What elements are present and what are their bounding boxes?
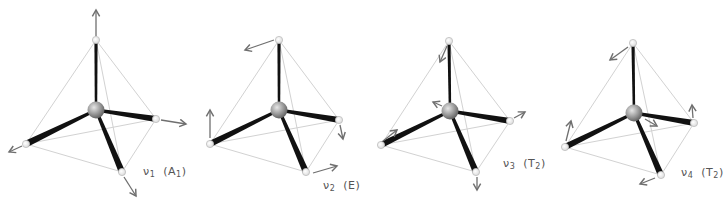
tetrahedron-edge — [381, 145, 476, 172]
central-atom-sphere — [88, 102, 105, 119]
mode-index: 4 — [688, 171, 694, 180]
ligand-atom-top — [629, 39, 636, 46]
mode-symbol: ν — [323, 179, 330, 192]
mode-v2-diagram — [206, 36, 343, 175]
symmetry-subscript: 2 — [713, 171, 719, 180]
tetrahedron-edge — [26, 119, 156, 144]
displacement-arrow-icon — [161, 120, 186, 124]
symmetry-subscript: 1 — [176, 170, 182, 179]
ligand-atom-left — [22, 140, 29, 147]
ligand-atom-left — [206, 140, 213, 147]
ligand-atom-right — [335, 116, 342, 123]
bond-bottom — [278, 109, 309, 173]
mode-label-v2: ν2 (E) — [323, 179, 360, 193]
bond-right — [279, 109, 340, 123]
bond-top — [277, 40, 280, 110]
mode-symbol: ν — [503, 157, 510, 170]
bond-top — [447, 41, 451, 111]
displacement-arrow-icon — [514, 112, 525, 118]
displacement-arrow-icon — [9, 146, 22, 152]
bond-left — [209, 109, 280, 147]
ligand-atom-left — [377, 141, 384, 148]
displacement-arrow-icon — [566, 121, 571, 141]
symmetry-subscript: 2 — [535, 162, 541, 171]
bond-bottom — [633, 112, 664, 176]
symmetry-label: E — [348, 179, 355, 192]
ligand-atom-left — [561, 143, 568, 150]
tetrahedron-edge — [565, 147, 661, 175]
central-atom-sphere — [271, 102, 288, 119]
tetrahedron-edge — [26, 144, 122, 172]
tetrahedron-edge — [306, 120, 339, 172]
ligand-atom-top — [275, 36, 282, 43]
ligand-atom-bottom — [118, 168, 125, 175]
bond-top — [631, 43, 635, 113]
bond-left — [25, 109, 97, 147]
bond-left — [564, 112, 635, 150]
bond-bottom — [449, 110, 479, 173]
ligand-atom-bottom — [472, 168, 479, 175]
symmetry-label: A — [168, 165, 176, 178]
displacement-arrow-icon — [645, 119, 657, 126]
mode-symbol: ν — [681, 166, 688, 179]
bond-left — [380, 110, 451, 148]
displacement-arrow-icon — [640, 178, 655, 184]
displacement-arrow-icon — [692, 105, 693, 118]
mode-index: 1 — [150, 170, 156, 179]
mode-label-v4: ν4 (T2) — [681, 166, 724, 180]
mode-index: 2 — [330, 184, 336, 193]
bond-right — [96, 109, 157, 122]
displacement-arrow-icon — [433, 102, 442, 106]
mode-label-v3: ν3 (T2) — [503, 157, 546, 171]
displacement-arrow-icon — [245, 40, 274, 50]
displacement-arrow-icon — [124, 177, 136, 196]
ligand-atom-top — [92, 36, 99, 43]
central-atom-sphere — [442, 103, 459, 120]
ligand-atom-top — [445, 37, 452, 44]
ligand-atom-bottom — [657, 171, 664, 178]
mode-v4-diagram — [561, 39, 697, 184]
bond-right — [634, 112, 695, 126]
ligand-atom-right — [152, 115, 159, 122]
displacement-arrow-icon — [610, 47, 628, 60]
ligand-atom-bottom — [302, 168, 309, 175]
bond-right — [450, 110, 511, 124]
tetrahedron-edge — [279, 40, 339, 120]
displacement-arrow-icon — [340, 125, 343, 139]
ligand-atom-right — [690, 119, 697, 126]
tetrahedron-edge — [96, 40, 156, 119]
displacement-arrow-icon — [313, 166, 337, 173]
tetrahedron-edge — [210, 144, 306, 172]
central-atom-sphere — [626, 105, 643, 122]
mode-symbol: ν — [143, 165, 150, 178]
ligand-atom-right — [506, 117, 513, 124]
bond-bottom — [95, 109, 125, 173]
mode-label-v1: ν1 (A1) — [143, 165, 186, 179]
mode-index: 3 — [510, 162, 516, 171]
bond-top — [94, 40, 97, 110]
